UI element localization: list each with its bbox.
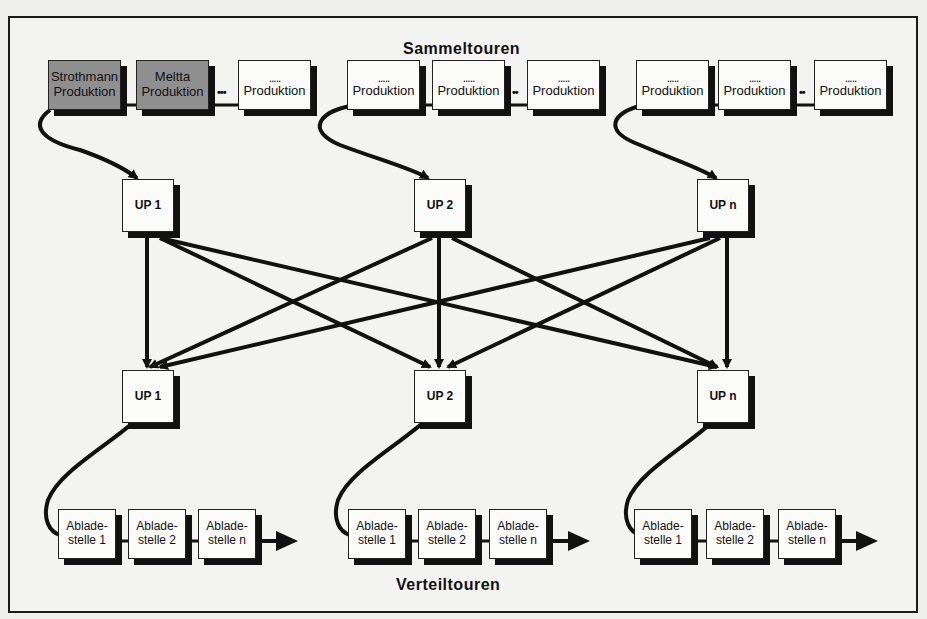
- unloading-point-box: Ablade- stelle 1: [634, 509, 692, 559]
- production-box: ..... Produktion: [814, 60, 887, 110]
- production-name: Strothmann: [51, 70, 118, 85]
- production-box: ..... Produktion: [718, 60, 791, 110]
- production-name: .....: [845, 72, 857, 84]
- unloading-point-box: Ablade- stelle 1: [348, 509, 406, 559]
- production-label: Produktion: [141, 85, 203, 100]
- transshipment-point-bottom-n: UP n: [697, 370, 749, 423]
- collection-tours-title: Sammeltouren: [403, 40, 520, 58]
- unloading-number: stelle 2: [716, 534, 754, 548]
- production-label: Produktion: [53, 85, 115, 100]
- unloading-label: Ablade-: [642, 520, 683, 534]
- unloading-label: Ablade-: [136, 520, 177, 534]
- connector-ellipsis: ••: [512, 86, 518, 98]
- unloading-number: stelle n: [499, 534, 537, 548]
- transshipment-point-bottom-1: UP 1: [122, 370, 174, 423]
- production-label: Produktion: [243, 84, 305, 99]
- connector-ellipsis: •••: [217, 86, 226, 98]
- production-name: .....: [558, 72, 570, 84]
- production-box: ..... Produktion: [527, 60, 600, 110]
- unloading-point-box: Ablade- stelle 2: [128, 509, 186, 559]
- unloading-number: stelle n: [208, 534, 246, 548]
- production-label: Produktion: [437, 84, 499, 99]
- production-box: ..... Produktion: [347, 60, 420, 110]
- production-label: Produktion: [352, 84, 414, 99]
- production-label: Produktion: [723, 84, 785, 99]
- production-name: .....: [667, 72, 679, 84]
- unloading-label: Ablade-: [206, 520, 247, 534]
- unloading-point-box: Ablade- stelle 2: [706, 509, 764, 559]
- unloading-point-box: Ablade- stelle n: [489, 509, 547, 559]
- unloading-label: Ablade-: [714, 520, 755, 534]
- unloading-number: stelle 1: [644, 534, 682, 548]
- production-name: .....: [378, 72, 390, 84]
- transshipment-point-bottom-2: UP 2: [414, 370, 466, 423]
- production-name: Meltta: [155, 70, 190, 85]
- unloading-point-box: Ablade- stelle 2: [418, 509, 476, 559]
- production-box-meltta: Meltta Produktion: [136, 60, 209, 110]
- unloading-point-box: Ablade- stelle n: [198, 509, 256, 559]
- transshipment-point-top-1: UP 1: [122, 179, 174, 232]
- transshipment-point-top-n: UP n: [697, 179, 749, 232]
- unloading-label: Ablade-: [786, 520, 827, 534]
- unloading-label: Ablade-: [426, 520, 467, 534]
- unloading-point-box: Ablade- stelle 1: [58, 509, 116, 559]
- production-box: ..... Produktion: [636, 60, 709, 110]
- transshipment-point-top-2: UP 2: [414, 179, 466, 232]
- unloading-label: Ablade-: [497, 520, 538, 534]
- unloading-label: Ablade-: [66, 520, 107, 534]
- production-name: .....: [749, 72, 761, 84]
- production-box: ..... Produktion: [238, 60, 311, 110]
- unloading-point-box: Ablade- stelle n: [778, 509, 836, 559]
- unloading-number: stelle 1: [68, 534, 106, 548]
- production-box-strothmann: Strothmann Produktion: [48, 60, 121, 110]
- production-name: .....: [463, 72, 475, 84]
- production-label: Produktion: [641, 84, 703, 99]
- unloading-number: stelle 1: [358, 534, 396, 548]
- connector-ellipsis: ••: [799, 86, 805, 98]
- unloading-number: stelle 2: [138, 534, 176, 548]
- production-name: .....: [269, 72, 281, 84]
- unloading-number: stelle n: [788, 534, 826, 548]
- production-label: Produktion: [819, 84, 881, 99]
- unloading-label: Ablade-: [356, 520, 397, 534]
- production-label: Produktion: [532, 84, 594, 99]
- distribution-tours-title: Verteiltouren: [396, 576, 500, 594]
- production-box: ..... Produktion: [432, 60, 505, 110]
- unloading-number: stelle 2: [428, 534, 466, 548]
